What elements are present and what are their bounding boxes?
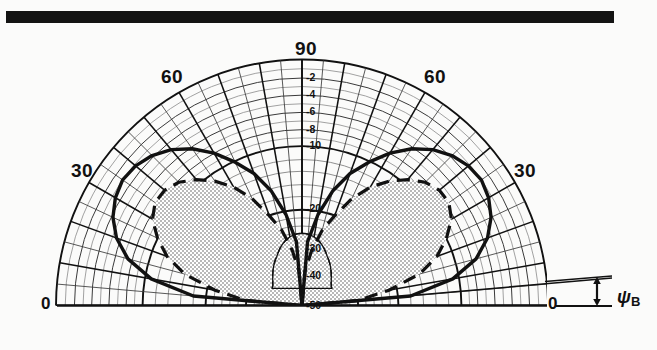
- radial-tick-minus40: -40: [306, 269, 321, 281]
- figure-canvas: 90 60 60 30 30 0 0 ψB -2-4-6-8-10-20-30-…: [0, 0, 657, 350]
- angle-label-30-right: 30: [514, 160, 536, 182]
- radial-tick-minus2: -2: [306, 71, 315, 83]
- angle-label-30-left: 30: [71, 160, 93, 182]
- angle-label-0-right: 0: [548, 294, 558, 314]
- radial-tick-minus4: -4: [306, 88, 315, 100]
- angle-label-90: 90: [295, 38, 317, 60]
- radial-tick-minus6: -6: [306, 105, 315, 117]
- beamwidth-label: ψB: [617, 287, 640, 309]
- radial-tick-minus10: -10: [306, 139, 321, 151]
- radial-tick-minus30: -30: [306, 242, 321, 254]
- radial-tick-minus50: -50: [306, 299, 321, 311]
- angle-label-60-left: 60: [161, 66, 183, 88]
- radial-tick-minus8: -8: [306, 123, 315, 135]
- angle-label-0-left: 0: [41, 294, 51, 314]
- angle-label-60-right: 60: [424, 66, 446, 88]
- polar-plot: [0, 0, 657, 350]
- radial-tick-minus20: -20: [306, 202, 321, 214]
